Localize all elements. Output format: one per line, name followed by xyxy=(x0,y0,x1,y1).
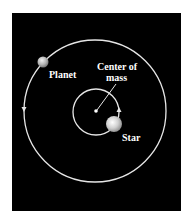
center-of-mass-dot xyxy=(94,109,98,113)
planet xyxy=(38,57,49,68)
planet-label: Planet xyxy=(49,69,77,80)
center-of-mass-label-line2: mass xyxy=(106,72,127,83)
star-label: Star xyxy=(122,132,141,143)
planet-orbit-arrow-icon xyxy=(22,107,27,112)
star xyxy=(106,116,122,132)
orbit-diagram: Planet Center of mass Star xyxy=(0,0,188,217)
star-orbit-arrow-icon xyxy=(117,107,122,112)
center-of-mass-label-line1: Center of xyxy=(97,61,138,72)
